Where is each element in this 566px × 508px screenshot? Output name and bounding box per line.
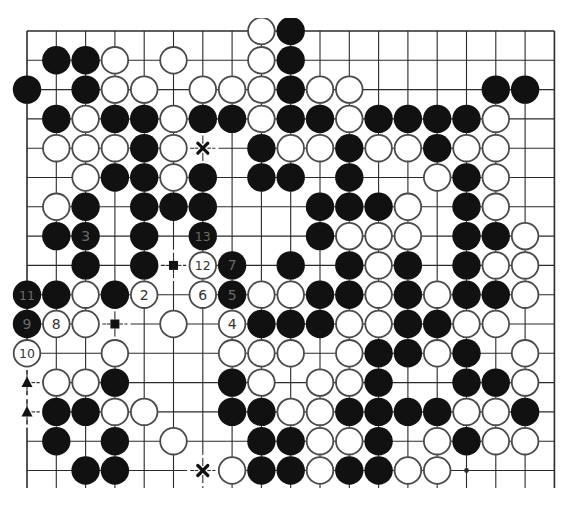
black-stone[interactable] — [423, 105, 451, 133]
white-stone[interactable] — [453, 311, 480, 338]
black-stone[interactable] — [189, 163, 217, 191]
white-stone[interactable] — [512, 223, 539, 250]
black-stone[interactable] — [306, 281, 334, 309]
white-stone[interactable] — [43, 194, 70, 221]
white-stone[interactable]: 12 — [190, 252, 217, 279]
black-stone[interactable] — [482, 368, 510, 396]
white-stone[interactable] — [131, 399, 158, 426]
black-stone[interactable] — [101, 456, 129, 484]
black-stone[interactable] — [452, 339, 480, 367]
white-stone[interactable] — [307, 135, 334, 162]
white-stone[interactable] — [395, 457, 422, 484]
black-stone[interactable] — [130, 222, 158, 250]
black-stone[interactable] — [335, 456, 363, 484]
white-stone[interactable] — [483, 164, 510, 191]
black-stone[interactable] — [335, 281, 363, 309]
black-stone[interactable] — [364, 193, 392, 221]
black-stone[interactable]: 9 — [13, 310, 41, 338]
white-stone[interactable] — [72, 311, 99, 338]
white-stone[interactable] — [160, 106, 187, 133]
black-stone[interactable] — [71, 75, 99, 103]
black-stone[interactable] — [71, 456, 99, 484]
white-stone[interactable] — [72, 281, 99, 308]
black-stone[interactable] — [364, 456, 392, 484]
black-stone[interactable] — [13, 75, 41, 103]
black-stone[interactable] — [482, 75, 510, 103]
black-stone[interactable] — [306, 310, 334, 338]
white-stone[interactable] — [277, 340, 304, 367]
black-stone[interactable] — [247, 398, 275, 426]
black-stone[interactable] — [42, 46, 70, 74]
white-stone[interactable] — [277, 135, 304, 162]
black-stone[interactable] — [452, 427, 480, 455]
black-stone[interactable]: 11 — [13, 281, 41, 309]
black-stone[interactable] — [277, 163, 305, 191]
black-stone[interactable] — [452, 251, 480, 279]
white-stone[interactable] — [424, 164, 451, 191]
black-stone[interactable] — [159, 193, 187, 221]
black-stone[interactable] — [277, 75, 305, 103]
black-stone[interactable] — [335, 251, 363, 279]
white-stone[interactable] — [277, 399, 304, 426]
black-stone[interactable] — [394, 105, 422, 133]
black-stone[interactable] — [394, 310, 422, 338]
black-stone[interactable] — [247, 427, 275, 455]
black-stone[interactable] — [511, 75, 539, 103]
black-stone[interactable] — [130, 193, 158, 221]
white-stone[interactable] — [43, 135, 70, 162]
black-stone[interactable] — [218, 105, 246, 133]
black-stone[interactable] — [423, 134, 451, 162]
black-stone[interactable] — [101, 368, 129, 396]
white-stone[interactable] — [336, 76, 363, 103]
white-stone[interactable] — [102, 399, 129, 426]
white-stone[interactable] — [336, 428, 363, 455]
white-stone[interactable] — [512, 252, 539, 279]
white-stone[interactable] — [248, 106, 275, 133]
white-stone[interactable] — [512, 428, 539, 455]
black-stone[interactable]: 7 — [218, 251, 246, 279]
black-stone[interactable] — [482, 281, 510, 309]
black-stone[interactable] — [306, 222, 334, 250]
white-stone[interactable] — [395, 223, 422, 250]
black-stone[interactable] — [364, 427, 392, 455]
white-stone[interactable] — [219, 457, 246, 484]
black-stone[interactable] — [218, 398, 246, 426]
white-stone[interactable] — [307, 369, 334, 396]
white-stone[interactable] — [307, 399, 334, 426]
white-stone[interactable] — [307, 428, 334, 455]
black-stone[interactable]: 3 — [71, 222, 99, 250]
black-stone[interactable] — [364, 339, 392, 367]
black-stone[interactable] — [364, 398, 392, 426]
black-stone[interactable] — [277, 427, 305, 455]
black-stone[interactable] — [335, 163, 363, 191]
white-stone[interactable] — [483, 106, 510, 133]
black-stone[interactable] — [335, 193, 363, 221]
black-stone[interactable] — [42, 398, 70, 426]
black-stone[interactable] — [101, 427, 129, 455]
black-stone[interactable] — [277, 46, 305, 74]
black-stone[interactable] — [452, 281, 480, 309]
white-stone[interactable] — [365, 223, 392, 250]
black-stone[interactable] — [101, 281, 129, 309]
black-stone[interactable] — [277, 456, 305, 484]
white-stone[interactable] — [336, 340, 363, 367]
white-stone[interactable] — [424, 428, 451, 455]
black-stone[interactable] — [277, 105, 305, 133]
white-stone[interactable] — [307, 457, 334, 484]
black-stone[interactable] — [42, 281, 70, 309]
white-stone[interactable] — [512, 340, 539, 367]
black-stone[interactable] — [101, 105, 129, 133]
black-stone[interactable] — [130, 163, 158, 191]
white-stone[interactable] — [512, 281, 539, 308]
white-stone[interactable] — [395, 135, 422, 162]
white-stone[interactable]: 10 — [14, 340, 41, 367]
black-stone[interactable] — [101, 163, 129, 191]
white-stone[interactable] — [365, 135, 392, 162]
black-stone[interactable] — [394, 398, 422, 426]
black-stone[interactable] — [306, 193, 334, 221]
white-stone[interactable] — [102, 47, 129, 74]
black-stone[interactable] — [452, 105, 480, 133]
white-stone[interactable] — [277, 281, 304, 308]
white-stone[interactable] — [395, 194, 422, 221]
white-stone[interactable] — [248, 340, 275, 367]
